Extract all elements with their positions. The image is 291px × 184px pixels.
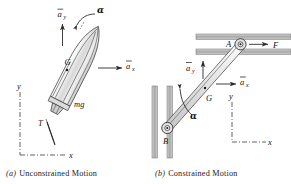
label-mg-a: mg	[74, 99, 84, 109]
accel-x-subscript-a: x	[131, 66, 135, 72]
caption-a-tag: (a)	[6, 169, 16, 178]
figure-canvas: G a y a x α mg T y x (a)Unconstraine	[0, 0, 291, 184]
pin-A	[235, 39, 246, 50]
caption-b-tag: (b)	[155, 169, 165, 178]
caption-a: (a)Unconstrained Motion	[6, 169, 97, 178]
label-G-a: G	[65, 57, 71, 67]
caption-b-text: Constrained Motion	[168, 169, 237, 178]
horizontal-slot-lower-rail	[196, 49, 291, 55]
label-G-b: G	[206, 93, 212, 103]
axis-y-label-b: y	[228, 91, 233, 101]
accel-x-symbol-b: a	[240, 77, 244, 87]
accel-y-symbol-a: a	[58, 9, 62, 19]
figure-background	[0, 0, 291, 184]
axis-x-label-a: x	[68, 150, 73, 160]
caption-b: (b)Constrained Motion	[155, 169, 237, 178]
center-of-mass-dot-b	[204, 87, 206, 89]
caption-a-text: Unconstrained Motion	[19, 169, 97, 178]
pin-B-center-dot	[166, 127, 168, 129]
axis-x-label-b: x	[267, 137, 272, 147]
accel-y-symbol-b: a	[186, 63, 190, 73]
label-alpha-a: α	[97, 5, 104, 15]
center-of-mass-dot-a	[66, 69, 69, 72]
axis-y-label-a: y	[16, 81, 21, 91]
label-alpha-b: α	[190, 111, 197, 121]
label-A: A	[225, 39, 232, 49]
accel-x-subscript-b: x	[245, 82, 249, 88]
pin-B	[162, 122, 173, 133]
label-B: B	[163, 136, 168, 146]
accel-y-subscript-b: y	[191, 68, 195, 74]
mechanics-figure: G a y a x α mg T y x (a)Unconstraine	[0, 0, 291, 184]
vertical-slot-left-rail	[152, 86, 158, 158]
accel-y-subscript-a: y	[62, 14, 66, 20]
accel-x-symbol-a: a	[126, 61, 130, 71]
pin-A-center-dot	[239, 43, 241, 45]
label-F: F	[272, 40, 279, 50]
